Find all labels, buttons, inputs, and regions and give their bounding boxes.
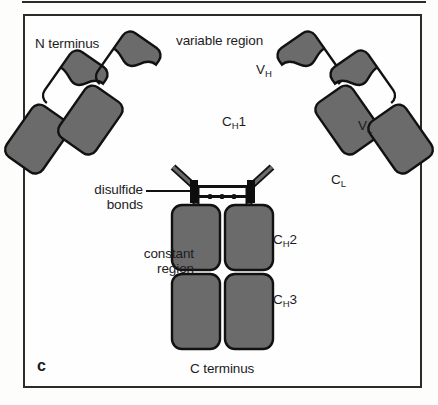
left-ch3-domain	[172, 274, 220, 349]
label-ch1-letter: C	[222, 114, 232, 129]
label-constant-region: constantregion	[93, 246, 194, 276]
label-vl-subscript: L	[367, 124, 372, 135]
label-ch3-subscript: H	[283, 298, 290, 309]
label-c-terminus: C terminus	[190, 361, 254, 376]
label-disulfide-line1: disulfide	[94, 182, 143, 197]
label-constant-line2: region	[157, 261, 194, 276]
label-ch3: CH3	[273, 292, 297, 308]
label-ch1-subscript: H	[232, 120, 239, 131]
label-ch2-letter: C	[273, 232, 283, 247]
fc-region	[172, 205, 273, 349]
label-cl-subscript: L	[341, 178, 346, 189]
label-n-terminus: N terminus	[35, 36, 99, 51]
right-cl-domain	[365, 101, 437, 177]
label-disulfide-line2: bonds	[107, 197, 143, 212]
label-ch2-number: 2	[289, 232, 296, 247]
label-ch2-subscript: H	[283, 238, 290, 249]
figure-root: N terminus variable region VH CH1 VL CL …	[0, 0, 438, 405]
label-vl: VL	[358, 118, 372, 134]
label-cl-letter: C	[331, 172, 341, 187]
label-vh: VH	[256, 62, 272, 78]
panel-letter: c	[37, 358, 46, 373]
label-vh-letter: V	[256, 62, 265, 77]
label-ch1-number: 1	[238, 114, 245, 129]
label-constant-line1: constant	[144, 246, 194, 261]
right-ch3-domain	[225, 274, 273, 349]
label-vh-subscript: H	[265, 68, 272, 79]
label-vl-letter: V	[358, 118, 367, 133]
hinge-disulfide-region	[190, 180, 255, 203]
label-ch2: CH2	[273, 232, 297, 248]
label-ch3-number: 3	[289, 292, 296, 307]
label-variable-region: variable region	[176, 33, 263, 48]
label-ch3-letter: C	[273, 292, 283, 307]
label-disulfide-bonds: disulfidebonds	[43, 182, 143, 212]
right-ch2-domain	[225, 205, 273, 270]
label-ch1: CH1	[222, 114, 246, 130]
right-heavy-chain-fab	[274, 28, 383, 158]
label-cl: CL	[331, 172, 346, 188]
left-ch1-domain	[55, 82, 127, 158]
